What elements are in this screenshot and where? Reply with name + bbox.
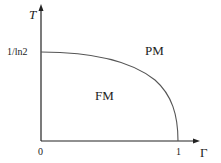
x-tick-label-one: 1 (176, 147, 181, 157)
y-axis-arrow-icon (39, 4, 44, 11)
region-label-pm: PM (145, 44, 164, 57)
x-axis-arrow-icon (193, 139, 200, 144)
region-label-fm: FM (95, 89, 114, 102)
phase-diagram-canvas (0, 0, 221, 163)
x-tick-label-zero: 0 (38, 147, 43, 157)
phase-diagram: T Γ 1/ln2 0 1 FM PM (0, 0, 221, 163)
y-axis-label: T (29, 8, 36, 21)
x-axis-label: Γ (200, 146, 208, 159)
y-tick-label: 1/ln2 (7, 47, 28, 57)
